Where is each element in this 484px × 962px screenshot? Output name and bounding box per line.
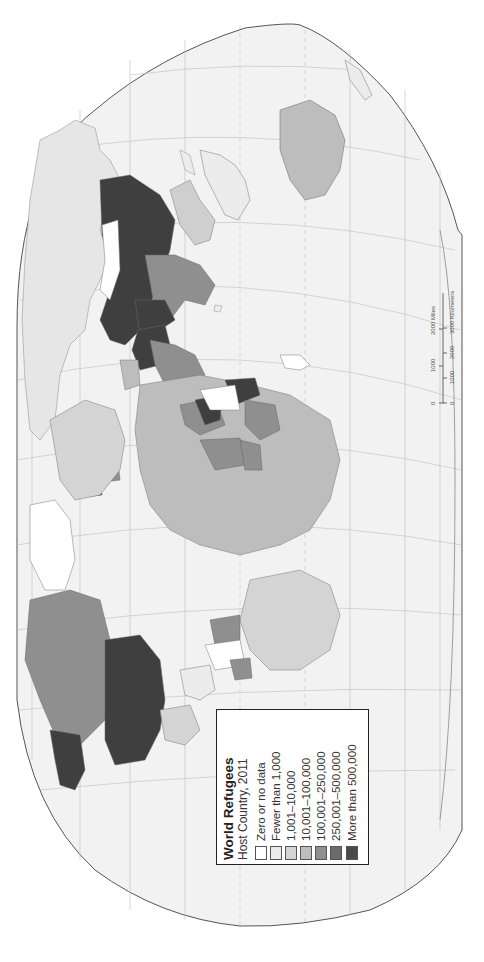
legend-item: Fewer than 1,000 [268,716,283,860]
legend-swatch [285,846,297,860]
legend-swatch [255,846,267,860]
legend-item: 1,001–10,000 [283,716,298,860]
scale-miles-1000: 1000 [430,359,436,372]
legend-label: 10,001–100,000 [300,758,312,841]
legend-item: More than 500,000 [344,716,359,860]
scale-miles-2000: 2000 Miles [430,306,436,335]
scale-km-0: 0 [449,402,455,405]
legend-label: 100,001–250,000 [315,751,327,841]
legend-label: Fewer than 1,000 [270,751,282,841]
legend-label: Zero or no data [255,762,267,841]
scale-bar-graphic [428,268,458,408]
legend-subtitle: Host Country, 2011 [236,716,250,860]
legend-title: World Refugees [221,716,236,860]
legend-item: 250,001–500,000 [329,716,344,860]
scale-bar: 0 1000 2000 Miles 0 1000 2000 3000 Kilom… [428,268,458,408]
legend-swatch [270,846,282,860]
legend-item: 100,001–250,000 [314,716,329,860]
legend-item: 10,001–100,000 [299,716,314,860]
legend-item: Zero or no data [253,716,268,860]
legend-label: 1,001–10,000 [285,771,297,841]
legend-swatch [330,846,342,860]
scale-km-1000: 1000 [449,371,455,384]
legend-label: More than 500,000 [346,744,358,841]
scale-km-3000: 3000 Kilometers [449,291,455,334]
scale-miles-0: 0 [430,402,436,405]
legend: World Refugees Host Country, 2011 Zero o… [216,709,369,865]
legend-swatch [346,846,358,860]
legend-swatch [315,846,327,860]
legend-swatch [300,846,312,860]
legend-label: 250,001–500,000 [330,751,342,841]
scale-km-2000: 2000 [449,346,455,359]
